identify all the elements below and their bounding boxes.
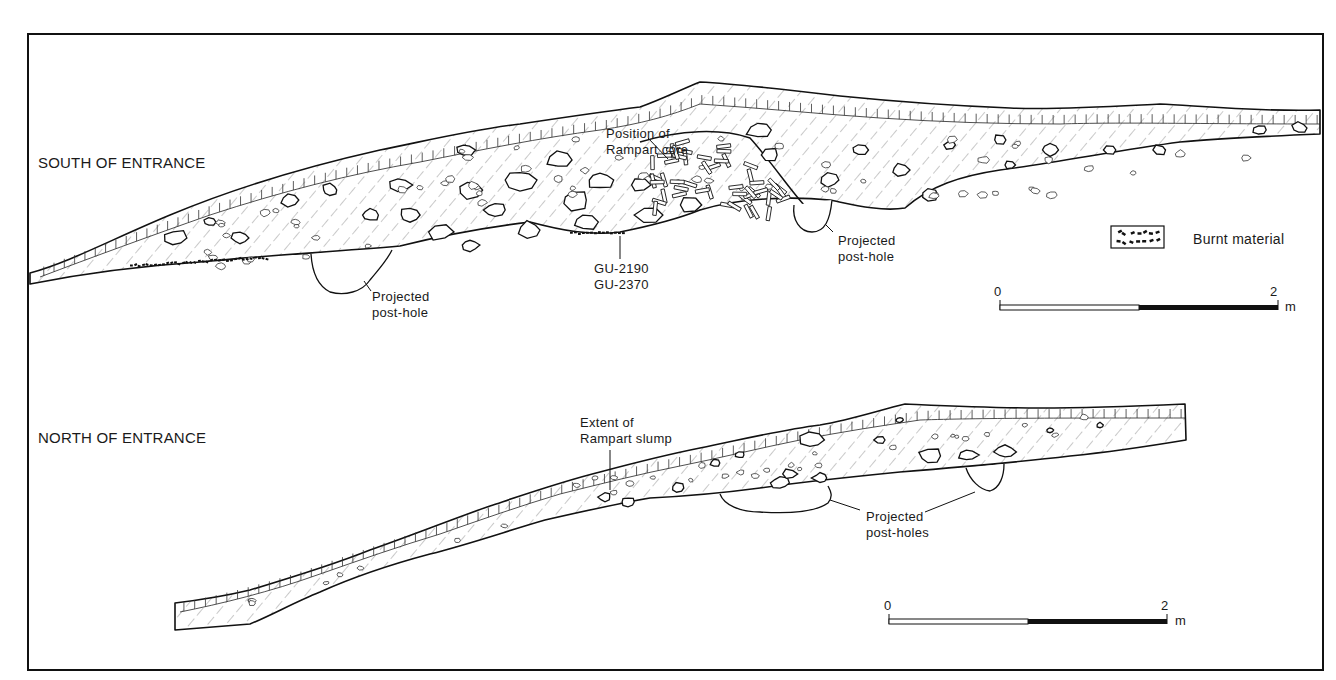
pebble (610, 490, 617, 495)
burnt-fragment (214, 259, 217, 261)
stone (1153, 145, 1166, 155)
burnt-fragment (590, 232, 593, 234)
rampart-slump-label-line2: Rampart slump (580, 431, 672, 446)
stone (204, 218, 216, 226)
south-posthole-right (794, 200, 832, 232)
rampart-slab (766, 206, 772, 220)
postholes-label-line2: post-holes (866, 525, 929, 540)
pebble (775, 143, 784, 149)
pebble (446, 176, 455, 183)
pebble (1047, 192, 1058, 199)
stone (622, 498, 634, 507)
rampart-core-label-line2: Rampart core (606, 142, 688, 157)
burnt-fragment (198, 260, 201, 262)
burnt-fragment (1116, 240, 1120, 243)
south-section-title: SOUTH OF ENTRANCE (38, 154, 206, 171)
stone (735, 452, 744, 458)
stone (896, 418, 903, 423)
stone (853, 145, 868, 155)
south-scale-start-label: 0 (994, 284, 1001, 299)
sample-code-2: GU-2370 (594, 277, 649, 292)
burnt-fragment (130, 265, 133, 267)
pebble (751, 474, 759, 479)
pebble (1242, 155, 1252, 161)
rampart-slab (651, 156, 655, 170)
burnt-fragment (162, 263, 165, 265)
north-scale-white-segment (889, 619, 1028, 624)
pebble (417, 186, 423, 190)
rampart-slab (750, 181, 764, 185)
pebble (798, 467, 802, 470)
north-posthole-right (966, 464, 1004, 491)
pebble (323, 582, 329, 585)
burnt-fragment (150, 264, 153, 266)
rampart-slab (650, 180, 664, 184)
rampart-slab (733, 192, 747, 196)
pebble (1084, 166, 1093, 172)
pebble (626, 481, 634, 487)
pebble (689, 478, 693, 482)
posthole-right-label-line1: Projected (838, 233, 896, 248)
burnt-fragment (598, 231, 601, 233)
posthole-right-leader (826, 225, 833, 232)
pebble (962, 437, 969, 441)
burnt-fragment (226, 260, 229, 262)
postholes-leader-left (830, 500, 860, 510)
rampart-core-label-line1: Position of (606, 126, 670, 141)
postholes-label-line1: Projected (866, 509, 924, 524)
burnt-fragment (606, 231, 609, 233)
burnt-fragment (246, 258, 249, 260)
burnt-fragment (610, 232, 613, 234)
legend-burnt-material-label: Burnt material (1193, 231, 1284, 247)
burnt-fragment (582, 232, 585, 234)
burnt-fragment (258, 257, 261, 259)
north-section: NORTH OF ENTRANCE Extent of Rampart slum… (38, 404, 1186, 630)
pebble (477, 191, 483, 196)
burnt-fragment (265, 258, 268, 261)
north-scale-unit: m (1175, 613, 1186, 628)
pebble (1012, 144, 1018, 148)
legend: Burnt material (1111, 226, 1284, 248)
stone (1253, 126, 1266, 134)
burnt-fragment (1149, 232, 1153, 235)
rampart-section-figure: SOUTH OF ENTRANCE Position of Rampart co… (0, 0, 1336, 680)
pebble (303, 255, 310, 260)
burnt-fragment (622, 232, 625, 234)
burnt-fragment (158, 264, 161, 266)
south-posthole-left (311, 250, 392, 294)
legend-burnt-material-swatch (1111, 226, 1164, 248)
pebble (572, 137, 580, 142)
burnt-fragment (614, 232, 617, 234)
stone (1047, 428, 1054, 433)
burnt-fragment (602, 232, 605, 234)
pebble (813, 452, 818, 455)
rampart-slab (717, 149, 731, 153)
posthole-left-label-line2: post-hole (372, 305, 428, 320)
pebble (959, 191, 969, 197)
pebble (763, 468, 769, 472)
pebble (977, 192, 988, 198)
burnt-fragment (174, 261, 177, 263)
pebble (861, 179, 866, 183)
pebble (215, 263, 225, 270)
north-scale-bar: 0 2 m (884, 598, 1186, 628)
burnt-fragment (594, 232, 597, 234)
south-scale-bar: 0 2 m (994, 284, 1296, 314)
burnt-fragment (570, 232, 573, 234)
pebble (1175, 150, 1185, 157)
south-scale-black-segment (1139, 305, 1278, 310)
burnt-fragment (618, 232, 621, 234)
sample-code-1: GU-2190 (594, 261, 649, 276)
burnt-fragment (1137, 232, 1141, 235)
burnt-fragment (1136, 240, 1140, 243)
stone (673, 483, 684, 493)
pebble (1031, 188, 1041, 194)
burnt-fragment (574, 231, 577, 233)
burnt-fragment (1142, 240, 1146, 243)
pebble (822, 162, 831, 168)
pebble (1130, 171, 1136, 175)
pebble (951, 435, 956, 438)
pebble (993, 191, 999, 195)
rampart-slab (670, 180, 684, 184)
pebble (273, 208, 279, 212)
